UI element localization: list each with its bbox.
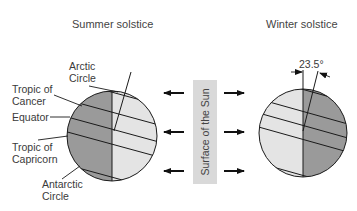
tropic-of-cancer-label: Tropic of Cancer [12, 83, 52, 107]
sun-surface-label: Surface of the Sun [199, 89, 211, 176]
summer-solstice-title: Summer solstice [72, 18, 153, 30]
equator-label: Equator [12, 111, 49, 123]
arctic-circle-label: Arctic Circle [69, 60, 96, 84]
winter-globe [255, 70, 355, 190]
tropic-of-capricorn-label: Tropic of Capricorn [12, 141, 58, 165]
summer-globe [38, 72, 170, 193]
winter-solstice-title: Winter solstice [266, 18, 338, 30]
tilt-angle-label: 23.5° [299, 58, 324, 70]
antarctic-circle-label: Antarctic Circle [42, 178, 83, 202]
